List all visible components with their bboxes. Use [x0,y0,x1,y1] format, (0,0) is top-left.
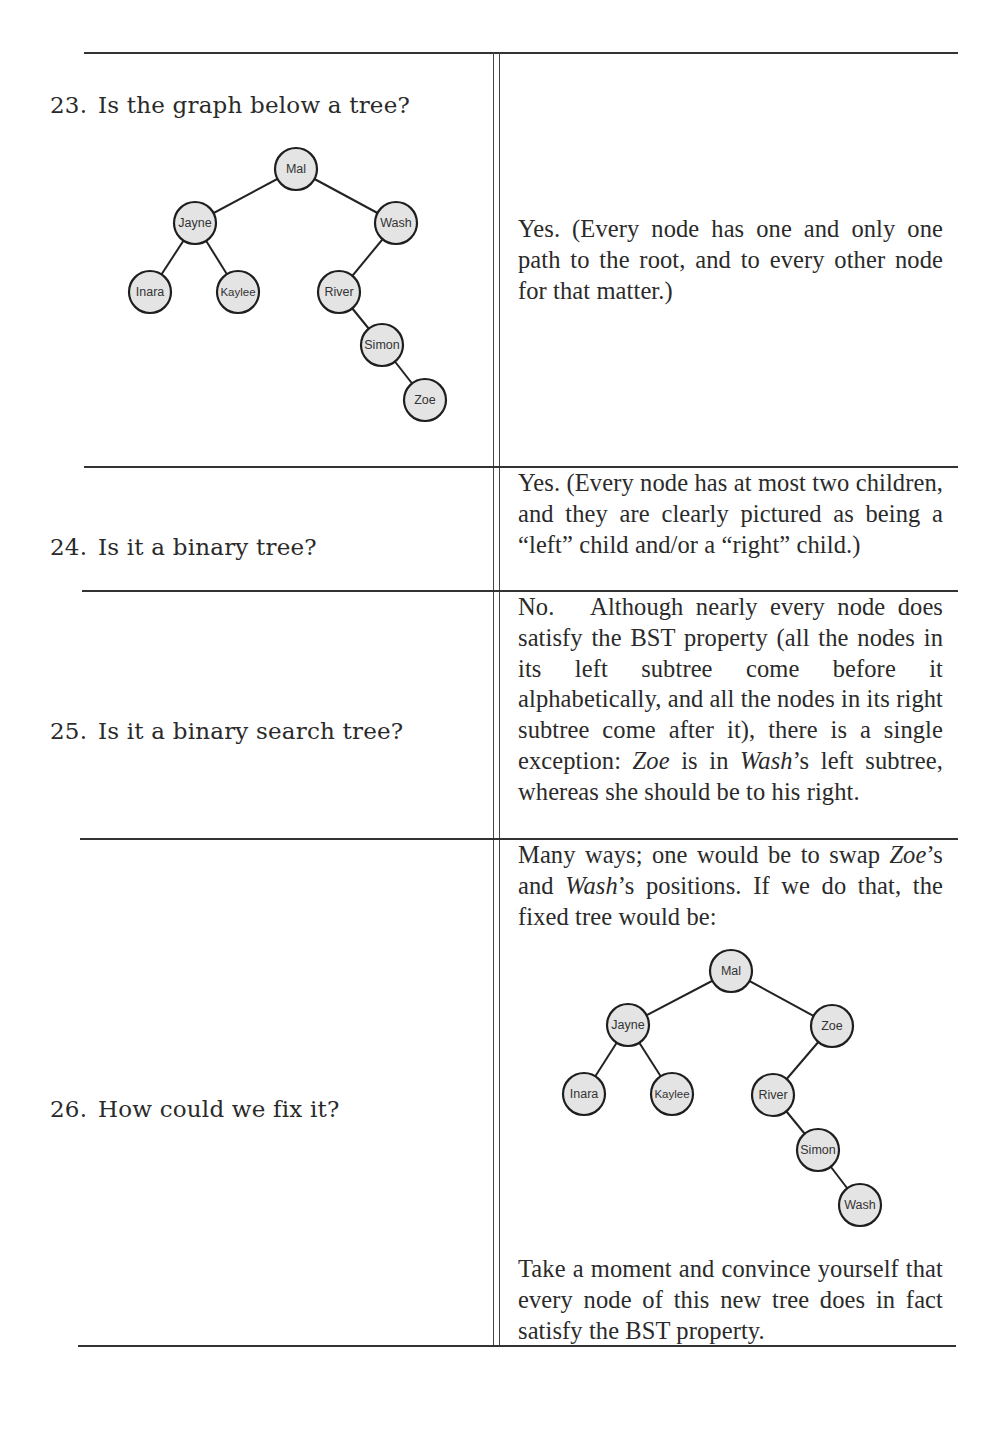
tree-node-mal: Mal [710,950,752,992]
name-wash: Wash [740,747,793,774]
tree-node-kaylee: Kaylee [217,271,259,313]
tree-node-label: Zoe [821,1019,843,1033]
column-divider-left [493,52,494,1346]
question-number: 23. [50,92,98,118]
tree-node-label: Inara [136,285,165,299]
tree-node-label: River [324,285,353,299]
question-24: 24.Is it a binary tree? [50,534,317,560]
tree-node-wash: Wash [375,202,417,244]
tree-node-jayne: Jayne [607,1004,649,1046]
tree-node-simon: Simon [797,1129,839,1171]
tree-diagram-original: MalJayneWashInaraKayleeRiverSimonZoe [110,140,470,430]
answer-26-closing: Take a moment and convince yourself that… [518,1254,943,1346]
answer-26: Many ways; one would be to swap Zoe’s an… [518,840,943,932]
tree-node-inara: Inara [563,1073,605,1115]
tree-node-label: Jayne [178,216,211,230]
question-number: 26. [50,1096,98,1122]
tree-node-kaylee: Kaylee [651,1073,693,1115]
tree-node-label: Mal [721,964,741,978]
tree-node-label: Wash [844,1198,876,1212]
question-23: 23.Is the graph below a tree? [50,92,410,118]
question-text: Is it a binary tree? [98,534,317,560]
tree-node-inara: Inara [129,271,171,313]
answer-25: No. Although nearly every node does sati… [518,592,943,808]
tree-node-label: Inara [570,1087,599,1101]
name-zoe: Zoe [633,747,670,774]
tree-node-wash: Wash [839,1184,881,1226]
answer-24: Yes. (Every node has at most two childre… [518,468,943,560]
tree-node-river: River [752,1074,794,1116]
question-25: 25.Is it a binary search tree? [50,718,403,744]
tree-node-label: Mal [286,162,306,176]
tree-node-label: Zoe [414,393,436,407]
question-text: Is it a binary search tree? [98,718,403,744]
tree-node-zoe: Zoe [404,379,446,421]
tree-node-label: River [758,1088,787,1102]
tree-node-label: Simon [800,1143,835,1157]
question-text: Is the graph below a tree? [98,92,410,118]
tree-node-label: Simon [364,338,399,352]
tree-node-zoe: Zoe [811,1005,853,1047]
tree-node-jayne: Jayne [174,202,216,244]
tree-node-label: Jayne [611,1018,644,1032]
tree-node-label: Wash [380,216,412,230]
tree-node-river: River [318,271,360,313]
name-wash: Wash [565,872,618,899]
table-top-rule [84,52,958,54]
tree-node-label: Kaylee [654,1088,689,1100]
name-zoe: Zoe [889,841,926,868]
question-number: 24. [50,534,98,560]
column-divider-right [499,52,500,1346]
tree-node-simon: Simon [361,324,403,366]
answer-23: Yes. (Every node has one and only one pa… [518,214,943,306]
tree-node-label: Kaylee [220,286,255,298]
question-text: How could we fix it? [98,1096,340,1122]
tree-node-mal: Mal [275,148,317,190]
question-number: 25. [50,718,98,744]
question-26: 26.How could we fix it? [50,1096,340,1122]
tree-diagram-fixed: MalJayneZoeInaraKayleeRiverSimonWash [550,940,900,1230]
